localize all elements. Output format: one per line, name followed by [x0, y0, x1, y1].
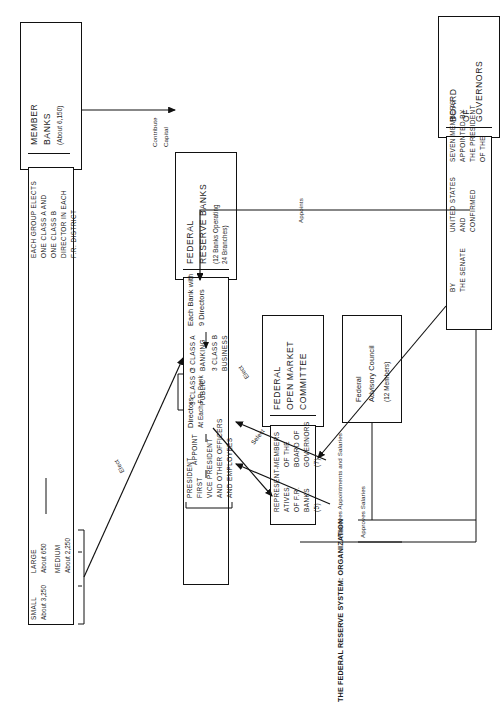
approves-salaries-label: Approves Salaries: [360, 486, 367, 538]
board-of-governors-detail-box: [446, 136, 492, 330]
bog-detail-8: BY: [450, 283, 457, 292]
bog-detail-1: SEVEN MEMBERS: [450, 100, 457, 162]
bog-detail-2: APPOINTED BY: [460, 109, 467, 162]
bog-detail-6: AND: [460, 217, 467, 232]
bog-detail-9: THE SENATE: [460, 248, 467, 292]
bog-detail-3: THE PRESIDENT: [470, 105, 477, 162]
bog-detail-5: UNITED STATES: [450, 177, 457, 232]
advisory-council-name-1: Federal: [355, 376, 363, 402]
bog-detail-7: CONFIRMED: [470, 189, 477, 232]
bog-detail-4: OF THE: [480, 136, 487, 162]
advisory-council-count: (12 Members): [384, 362, 391, 402]
